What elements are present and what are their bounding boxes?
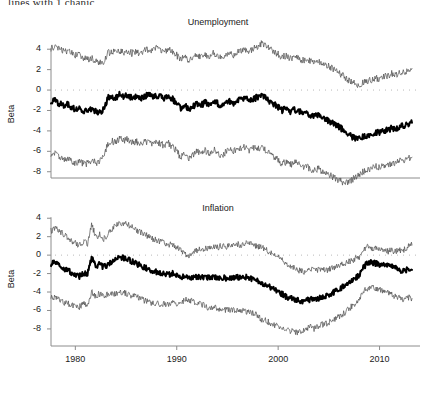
x-tick-label: 1990 — [157, 354, 197, 364]
y-tick-label: -6 — [19, 304, 41, 314]
y-tick-label: -6 — [19, 145, 41, 155]
x-tick-label: 2000 — [258, 354, 298, 364]
y-tick-label: 2 — [19, 231, 41, 241]
y-tick-label: 0 — [19, 249, 41, 259]
y-tick-label: -2 — [19, 104, 41, 114]
clipped-caption-text: lines with 1 chanic — [8, 0, 95, 5]
chart-page: lines with 1 chanic Unemployment Beta 42… — [0, 0, 436, 396]
y-tick-label: -8 — [19, 323, 41, 333]
panel-unemployment: Unemployment Beta 420-2-4-6-8 — [0, 14, 436, 196]
y-tick-label: 0 — [19, 84, 41, 94]
y-tick-label: 4 — [19, 212, 41, 222]
panel-inflation: Inflation Beta 420-2-4-6-819801990200020… — [0, 196, 436, 392]
y-tick-label: -8 — [19, 166, 41, 176]
y-tick-label: -4 — [19, 125, 41, 135]
y-tick-label: 4 — [19, 43, 41, 53]
y-tick-label: -2 — [19, 268, 41, 278]
plot-area-unemployment — [0, 14, 436, 196]
x-tick-label: 1980 — [55, 354, 95, 364]
y-tick-label: 2 — [19, 64, 41, 74]
y-tick-label: -4 — [19, 286, 41, 296]
x-tick-label: 2010 — [360, 354, 400, 364]
